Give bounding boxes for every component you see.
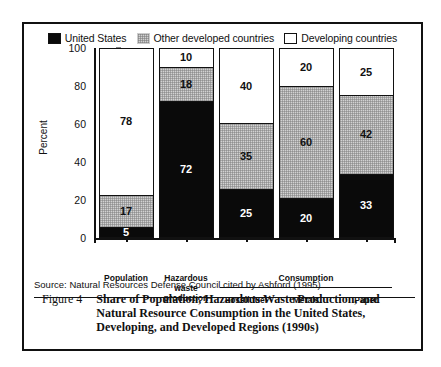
y-tick-label: 60	[74, 118, 86, 130]
bar-segment[interactable]: 20	[280, 49, 333, 87]
plot-wrapper: Percent 020406080100 5177872181025354020…	[24, 48, 425, 273]
legend-item-united-states: United States	[48, 32, 127, 44]
legend-item-other-developed: Other developed countries	[137, 32, 275, 44]
gray-square-icon	[137, 33, 150, 44]
bar-segment[interactable]: 78	[100, 49, 153, 196]
y-tick-label: 100	[68, 42, 86, 54]
x-axis-left-cap	[94, 238, 96, 243]
bar-value-label: 40	[240, 81, 252, 92]
bar-value-label: 20	[300, 62, 312, 73]
bar-group[interactable]: 206020	[279, 48, 334, 238]
bar-segment[interactable]: 33	[340, 175, 393, 237]
white-square-icon	[284, 33, 297, 44]
bar-segment[interactable]: 35	[220, 124, 273, 190]
figure-frame: United States Other developed countries …	[22, 22, 423, 351]
bar-value-label: 60	[300, 137, 312, 148]
figure-number: Figure 4	[34, 292, 82, 334]
bar-value-label: 78	[120, 116, 132, 127]
legend-label-other-developed: Other developed countries	[154, 32, 275, 44]
bar-segment[interactable]: 42	[340, 96, 393, 175]
bar-segment[interactable]: 60	[280, 87, 333, 200]
bar-segment[interactable]: 25	[220, 190, 273, 237]
y-axis-ticks: 020406080100	[48, 48, 92, 238]
y-tick-label: 20	[74, 194, 86, 206]
x-axis-right-cap	[394, 238, 396, 243]
y-tick-label: 40	[74, 156, 86, 168]
bar-value-label: 35	[240, 151, 252, 162]
bar-segment[interactable]: 17	[100, 196, 153, 228]
bar-segment[interactable]: 18	[160, 68, 213, 102]
bar-value-label: 20	[300, 213, 312, 224]
y-axis-title: Percent	[38, 93, 49, 183]
legend-item-developing: Developing countries	[284, 32, 397, 44]
bar-value-label: 42	[360, 129, 372, 140]
bar-group[interactable]: 253540	[219, 48, 274, 238]
bar-value-label: 17	[120, 206, 132, 217]
bar-value-label: 25	[240, 208, 252, 219]
y-tick-label: 80	[74, 80, 86, 92]
source-text: Source: Natural Resources Defense Counci…	[34, 279, 321, 290]
caption-text: Share of Population, Hazardous Waste Pro…	[96, 292, 415, 334]
figure-caption: Figure 4 Share of Population, Hazardous …	[34, 292, 415, 334]
bar-segment[interactable]: 72	[160, 102, 213, 237]
bar-group[interactable]: 334225	[339, 48, 394, 238]
bar-segment[interactable]: 10	[160, 49, 213, 68]
plot-area: 51778721810253540206020334225	[96, 48, 396, 238]
x-axis-line	[94, 238, 396, 240]
bar-group[interactable]: 721810	[159, 48, 214, 238]
bar-value-label: 33	[360, 200, 372, 211]
bar-segment[interactable]: 25	[340, 49, 393, 96]
y-tick-label: 0	[80, 232, 86, 244]
bar-value-label: 72	[180, 164, 192, 175]
bar-segment[interactable]: 40	[220, 49, 273, 124]
bar-group[interactable]: 51778	[99, 48, 154, 238]
bar-segment[interactable]: 20	[280, 199, 333, 237]
bar-segment[interactable]: 5	[100, 228, 153, 237]
bar-value-label: 18	[180, 79, 192, 90]
bar-value-label: 25	[360, 67, 372, 78]
bar-value-label: 10	[180, 52, 192, 63]
legend-label-developing: Developing countries	[301, 32, 397, 44]
black-square-icon	[48, 33, 61, 44]
